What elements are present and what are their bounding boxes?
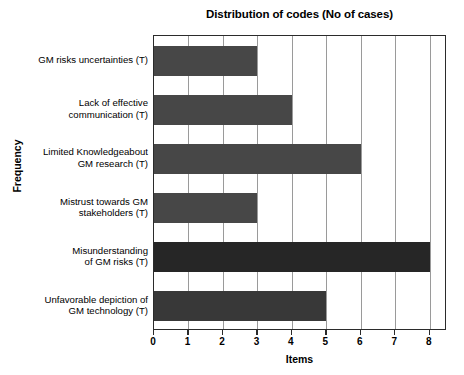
x-axis-tick-labels: 012345678 bbox=[153, 336, 446, 350]
chart-title: Distribution of codes (No of cases) bbox=[153, 8, 446, 20]
bar bbox=[154, 193, 257, 223]
x-tick-0 bbox=[153, 330, 154, 335]
y-tick-label: Limited KnowledgeaboutGM research (T) bbox=[20, 146, 148, 169]
bar bbox=[154, 95, 292, 125]
x-tick-5 bbox=[325, 330, 326, 335]
gridline-x-7 bbox=[395, 36, 396, 329]
y-tick-label: Mistrust towards GMstakeholders (T) bbox=[20, 196, 148, 219]
bar-chart-figure: Distribution of codes (No of cases) Freq… bbox=[0, 0, 464, 375]
y-tick-label: Misunderstandingof GM risks (T) bbox=[20, 245, 148, 268]
y-tick-label: GM risks uncertainties (T) bbox=[20, 54, 148, 66]
y-tick-label: Unfavorable depiction ofGM technology (T… bbox=[20, 294, 148, 317]
x-tick-label: 2 bbox=[211, 336, 233, 347]
gridline-x-2 bbox=[223, 36, 224, 329]
x-tick-8 bbox=[429, 330, 430, 335]
bar bbox=[154, 46, 257, 76]
x-tick-6 bbox=[360, 330, 361, 335]
gridline-x-8 bbox=[430, 36, 431, 329]
x-tick-7 bbox=[394, 330, 395, 335]
x-tick-4 bbox=[291, 330, 292, 335]
bar bbox=[154, 291, 326, 321]
x-tick-label: 3 bbox=[245, 336, 267, 347]
bar bbox=[154, 242, 430, 272]
x-tick-label: 1 bbox=[176, 336, 198, 347]
x-tick-label: 4 bbox=[280, 336, 302, 347]
gridline-x-4 bbox=[292, 36, 293, 329]
gridline-x-5 bbox=[326, 36, 327, 329]
x-tick-label: 7 bbox=[383, 336, 405, 347]
y-tick-label: Lack of effectivecommunication (T) bbox=[20, 97, 148, 120]
x-tick-label: 6 bbox=[349, 336, 371, 347]
x-tick-label: 5 bbox=[314, 336, 336, 347]
x-tick-label: 8 bbox=[418, 336, 440, 347]
gridline-x-6 bbox=[361, 36, 362, 329]
gridline-x-3 bbox=[257, 36, 258, 329]
bar bbox=[154, 144, 361, 174]
y-axis-tick-labels: GM risks uncertainties (T)Lack of effect… bbox=[20, 35, 148, 330]
x-tick-3 bbox=[256, 330, 257, 335]
plot-area bbox=[153, 35, 446, 330]
x-tick-1 bbox=[187, 330, 188, 335]
x-tick-label: 0 bbox=[142, 336, 164, 347]
x-axis-title: Items bbox=[153, 353, 446, 365]
gridline-x-1 bbox=[188, 36, 189, 329]
x-tick-2 bbox=[222, 330, 223, 335]
